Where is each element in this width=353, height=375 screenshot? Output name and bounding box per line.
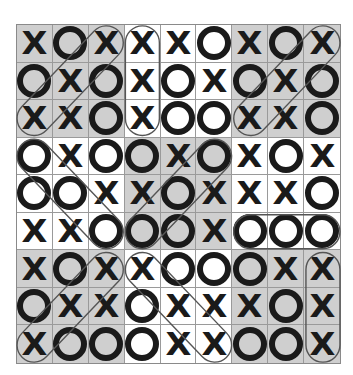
board-cell[interactable]: X bbox=[17, 25, 53, 63]
board-cell[interactable]: X bbox=[53, 138, 89, 176]
board-cell[interactable] bbox=[268, 325, 304, 363]
board-cell[interactable] bbox=[268, 138, 304, 176]
board-cell[interactable]: X bbox=[196, 213, 232, 251]
x-mark-icon: X bbox=[273, 102, 299, 134]
board-cell[interactable]: X bbox=[268, 63, 304, 101]
board-cell[interactable] bbox=[89, 138, 125, 176]
board-cell[interactable]: X bbox=[53, 100, 89, 138]
x-mark-icon: X bbox=[309, 290, 335, 322]
board-cell[interactable]: X bbox=[17, 100, 53, 138]
o-mark-icon bbox=[305, 176, 339, 210]
board-cell[interactable] bbox=[196, 138, 232, 176]
board-cell[interactable] bbox=[17, 288, 53, 326]
board-cell[interactable]: X bbox=[196, 175, 232, 213]
board-cell[interactable] bbox=[125, 213, 161, 251]
board-cell[interactable]: X bbox=[268, 100, 304, 138]
board-cell[interactable]: X bbox=[232, 138, 268, 176]
board-cell[interactable] bbox=[268, 213, 304, 251]
board-cell[interactable] bbox=[89, 100, 125, 138]
board-cell[interactable] bbox=[232, 325, 268, 363]
board-cell[interactable] bbox=[89, 63, 125, 101]
x-mark-icon: X bbox=[93, 253, 119, 285]
board-cell[interactable]: X bbox=[53, 63, 89, 101]
board-cell[interactable] bbox=[196, 25, 232, 63]
board-cell[interactable]: X bbox=[53, 213, 89, 251]
board-cell[interactable]: X bbox=[89, 288, 125, 326]
board-cell[interactable]: X bbox=[17, 213, 53, 251]
board-cell[interactable] bbox=[161, 250, 197, 288]
board-cell[interactable] bbox=[232, 250, 268, 288]
board-cell[interactable]: X bbox=[304, 288, 340, 326]
board-cell[interactable] bbox=[17, 63, 53, 101]
board-cell[interactable] bbox=[89, 325, 125, 363]
x-mark-icon: X bbox=[21, 328, 47, 360]
o-mark-icon bbox=[305, 64, 339, 98]
board-cell[interactable]: X bbox=[161, 288, 197, 326]
board-cell[interactable]: X bbox=[17, 250, 53, 288]
board-cell[interactable]: X bbox=[232, 175, 268, 213]
x-mark-icon: X bbox=[129, 102, 155, 134]
board-cell[interactable]: X bbox=[125, 250, 161, 288]
x-mark-icon: X bbox=[165, 27, 191, 59]
board-cell[interactable] bbox=[53, 250, 89, 288]
board-cell[interactable] bbox=[196, 100, 232, 138]
board-cell[interactable] bbox=[161, 63, 197, 101]
board-cell[interactable] bbox=[53, 175, 89, 213]
board-cell[interactable] bbox=[232, 213, 268, 251]
board-cell[interactable]: X bbox=[125, 25, 161, 63]
o-mark-icon bbox=[269, 26, 303, 60]
board-cell[interactable] bbox=[232, 63, 268, 101]
board-cell[interactable] bbox=[53, 25, 89, 63]
board-cell[interactable]: X bbox=[53, 288, 89, 326]
board-cell[interactable]: X bbox=[196, 63, 232, 101]
o-mark-icon bbox=[233, 327, 267, 361]
board-cell[interactable] bbox=[89, 213, 125, 251]
board-cell[interactable] bbox=[53, 325, 89, 363]
board-cell[interactable]: X bbox=[304, 138, 340, 176]
board-cell[interactable]: X bbox=[304, 25, 340, 63]
board-cell[interactable] bbox=[161, 175, 197, 213]
board-cell[interactable] bbox=[268, 288, 304, 326]
board-cell[interactable] bbox=[161, 213, 197, 251]
board-cell[interactable]: X bbox=[89, 250, 125, 288]
board-cell[interactable]: X bbox=[304, 250, 340, 288]
board-cell[interactable]: X bbox=[196, 325, 232, 363]
board-cell[interactable] bbox=[125, 288, 161, 326]
board-cell[interactable] bbox=[304, 213, 340, 251]
board-cell[interactable] bbox=[304, 63, 340, 101]
board-cell[interactable] bbox=[268, 25, 304, 63]
o-mark-icon bbox=[161, 101, 195, 135]
board-cell[interactable] bbox=[125, 138, 161, 176]
board-cell[interactable]: X bbox=[232, 288, 268, 326]
board-cell[interactable]: X bbox=[161, 325, 197, 363]
board-cell[interactable] bbox=[17, 138, 53, 176]
board-cell[interactable]: X bbox=[125, 175, 161, 213]
o-mark-icon bbox=[269, 289, 303, 323]
o-mark-icon bbox=[125, 139, 159, 173]
board-cell[interactable]: X bbox=[17, 325, 53, 363]
board-cell[interactable]: X bbox=[304, 325, 340, 363]
board-cell[interactable] bbox=[304, 100, 340, 138]
board-cell[interactable] bbox=[125, 325, 161, 363]
x-mark-icon: X bbox=[237, 290, 263, 322]
board-cell[interactable] bbox=[161, 100, 197, 138]
board-cell[interactable] bbox=[304, 175, 340, 213]
board-cell[interactable] bbox=[17, 175, 53, 213]
board-cell[interactable]: X bbox=[268, 250, 304, 288]
o-mark-icon bbox=[161, 176, 195, 210]
o-mark-icon bbox=[233, 252, 267, 286]
board-cell[interactable] bbox=[196, 250, 232, 288]
o-mark-icon bbox=[17, 289, 51, 323]
board-cell[interactable]: X bbox=[161, 25, 197, 63]
o-mark-icon bbox=[89, 214, 123, 248]
x-mark-icon: X bbox=[57, 215, 83, 247]
board-cell[interactable]: X bbox=[89, 25, 125, 63]
board-cell[interactable]: X bbox=[268, 175, 304, 213]
board-cell[interactable]: X bbox=[89, 175, 125, 213]
board-cell[interactable]: X bbox=[125, 100, 161, 138]
board-cell[interactable]: X bbox=[232, 25, 268, 63]
board-cell[interactable]: X bbox=[161, 138, 197, 176]
board-cell[interactable]: X bbox=[232, 100, 268, 138]
board-cell[interactable]: X bbox=[125, 63, 161, 101]
board-cell[interactable]: X bbox=[196, 288, 232, 326]
